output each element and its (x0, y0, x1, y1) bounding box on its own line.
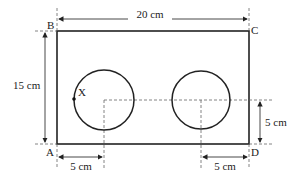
left-offset-label: 5 cm (70, 160, 92, 172)
width-label: 20 cm (136, 8, 164, 20)
vertex-d-label: D (251, 146, 259, 158)
vertical-offset-label: 5 cm (265, 116, 287, 128)
rectangle-with-circles-diagram: 20 cm 15 cm 5 cm 5 cm 5 cm B C A D X (0, 0, 297, 178)
vertex-a-label: A (46, 146, 54, 158)
vertex-c-label: C (251, 24, 258, 36)
point-x-label: X (78, 86, 86, 98)
vertex-b-label: B (47, 19, 54, 31)
height-label: 15 cm (13, 79, 41, 91)
right-offset-label: 5 cm (214, 160, 236, 172)
point-x-dot (72, 97, 76, 101)
